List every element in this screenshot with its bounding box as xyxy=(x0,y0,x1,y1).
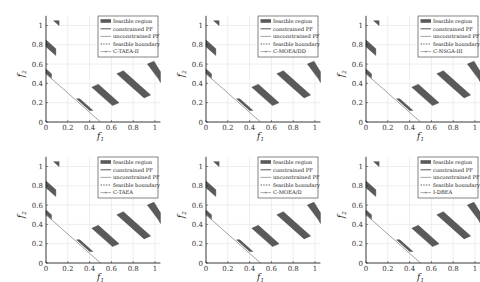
x-tick-label: 0.4 xyxy=(84,265,96,273)
legend-label: C-TAEA xyxy=(113,189,133,195)
x-tick-label: 0 xyxy=(44,124,48,132)
feasible-region xyxy=(437,71,471,98)
legend-label: constrained PF xyxy=(433,26,473,32)
x-tick-label: 0 xyxy=(204,265,208,273)
x-tick-label: 0.8 xyxy=(288,124,299,132)
x-axis-label: f1 xyxy=(416,272,424,282)
y-tick-label: 1 xyxy=(199,22,203,30)
x-tick-label: 0.6 xyxy=(426,124,438,132)
legend-swatch-feasible-region xyxy=(421,19,432,23)
legend-label: C-TAEA-II xyxy=(113,48,139,54)
chart-svg: 00.20.40.60.8100.20.40.60.81f1f2feasible… xyxy=(320,0,480,141)
legend-label: unconstrained PF xyxy=(113,33,160,39)
y-tick-label: 1 xyxy=(359,163,363,171)
subplot-c-moea-dd: 00.20.40.60.8100.20.40.60.81f1f2feasible… xyxy=(160,0,320,141)
legend-label: feasible region xyxy=(273,159,313,166)
legend-marker-algorithm xyxy=(425,192,427,194)
legend-label: C-MOEA/DD xyxy=(273,48,306,54)
x-tick-label: 1 xyxy=(313,124,317,132)
x-tick-label: 0 xyxy=(204,124,208,132)
feasible-region xyxy=(214,162,219,167)
y-tick-label: 0 xyxy=(359,119,363,127)
y-tick-label: 0 xyxy=(199,260,203,268)
subplot-i-dbea: 00.20.40.60.8100.20.40.60.81f1f2feasible… xyxy=(320,141,480,282)
subplot-c-taea-ii: 00.20.40.60.8100.20.40.60.81f1f2feasible… xyxy=(0,0,160,141)
y-tick-label: 0.2 xyxy=(32,240,43,248)
x-tick-label: 0.2 xyxy=(382,124,393,132)
legend-label: feasible region xyxy=(273,18,313,25)
feasible-region xyxy=(206,210,211,220)
legend-label: unconstrained PF xyxy=(113,174,160,180)
legend-marker-algorithm xyxy=(265,51,267,53)
feasible-region xyxy=(117,212,151,239)
y-tick-label: 0 xyxy=(199,119,203,127)
x-tick-label: 1 xyxy=(473,265,477,273)
legend-marker-algorithm xyxy=(105,51,107,53)
x-tick-label: 0.8 xyxy=(448,265,459,273)
x-tick-label: 0.8 xyxy=(128,124,139,132)
y-tick-label: 1 xyxy=(39,22,43,30)
y-tick-label: 0.8 xyxy=(352,41,363,49)
legend-label: constrained PF xyxy=(273,26,313,32)
legend-swatch-feasible-region xyxy=(101,19,112,23)
y-tick-label: 0.2 xyxy=(352,240,363,248)
y-tick-label: 1 xyxy=(359,22,363,30)
y-tick-label: 0.8 xyxy=(192,41,203,49)
x-tick-label: 0.2 xyxy=(222,124,233,132)
y-tick-label: 0.6 xyxy=(32,61,44,69)
feasible-region xyxy=(366,40,376,55)
x-tick-label: 0.8 xyxy=(448,124,459,132)
x-tick-label: 0.2 xyxy=(62,124,73,132)
feasible-region xyxy=(117,71,151,98)
x-axis-label: f1 xyxy=(96,272,104,282)
y-tick-label: 0.8 xyxy=(352,182,363,190)
unconstrained-pf-line xyxy=(46,215,101,263)
legend-label: unconstrained PF xyxy=(433,174,480,180)
figure-grid: 00.20.40.60.8100.20.40.60.81f1f2feasible… xyxy=(0,0,480,282)
unconstrained-pf-line xyxy=(206,215,261,263)
x-tick-label: 0.6 xyxy=(266,265,278,273)
legend-label: feasible boundary xyxy=(273,41,320,48)
legend-swatch-feasible-region xyxy=(261,19,272,23)
y-tick-label: 0.6 xyxy=(32,202,44,210)
feasible-region xyxy=(206,181,216,196)
feasible-region xyxy=(77,240,93,252)
x-tick-label: 0.2 xyxy=(382,265,393,273)
legend-label: feasible region xyxy=(433,159,473,166)
legend-label: I-DBEA xyxy=(433,189,453,195)
y-tick-label: 0.4 xyxy=(192,221,204,229)
y-tick-label: 0.2 xyxy=(32,99,43,107)
feasible-region xyxy=(54,21,59,26)
x-tick-label: 1 xyxy=(153,124,157,132)
feasible-region xyxy=(397,240,413,252)
chart-svg: 00.20.40.60.8100.20.40.60.81f1f2feasible… xyxy=(320,141,480,282)
feasible-region xyxy=(206,69,211,79)
y-tick-label: 0.8 xyxy=(192,182,203,190)
legend-label: unconstrained PF xyxy=(273,33,320,39)
x-tick-label: 0.4 xyxy=(244,124,256,132)
legend-label: feasible boundary xyxy=(433,41,480,48)
y-axis-label: f2 xyxy=(176,211,187,219)
x-tick-label: 0.6 xyxy=(426,265,438,273)
feasible-region xyxy=(374,162,379,167)
y-tick-label: 0.4 xyxy=(192,80,204,88)
feasible-region xyxy=(214,21,219,26)
x-tick-label: 0 xyxy=(364,124,368,132)
subplot-c-taea: 00.20.40.60.8100.20.40.60.81f1f2feasible… xyxy=(0,141,160,282)
y-axis-label-subscript: 2 xyxy=(21,70,27,75)
y-tick-label: 0.2 xyxy=(192,240,203,248)
legend-label: feasible region xyxy=(433,18,473,25)
x-tick-label: 0.4 xyxy=(84,124,96,132)
legend-swatch-feasible-region xyxy=(101,160,112,164)
chart-svg: 00.20.40.60.8100.20.40.60.81f1f2feasible… xyxy=(160,0,320,141)
unconstrained-pf-line xyxy=(366,215,421,263)
y-tick-label: 0.4 xyxy=(352,80,364,88)
y-axis-label: f2 xyxy=(336,70,347,78)
y-axis-label: f2 xyxy=(336,211,347,219)
subplot-c-nsga-iii: 00.20.40.60.8100.20.40.60.81f1f2feasible… xyxy=(320,0,480,141)
feasible-region xyxy=(54,162,59,167)
y-tick-label: 0 xyxy=(39,119,43,127)
chart-svg: 00.20.40.60.8100.20.40.60.81f1f2feasible… xyxy=(0,0,160,141)
unconstrained-pf-line xyxy=(366,74,421,122)
feasible-region xyxy=(46,40,56,55)
